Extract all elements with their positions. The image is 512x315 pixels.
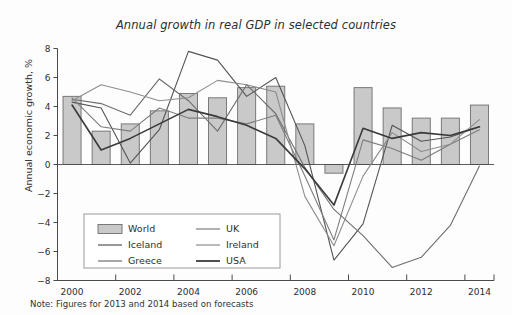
legend-label-usa: USA	[226, 255, 246, 266]
y-tick-label: −4	[37, 218, 51, 228]
y-tick-label: 0	[45, 160, 51, 170]
legend-label-world: World	[128, 223, 155, 234]
x-tick-label: 2014	[468, 287, 491, 297]
y-tick-label: −6	[37, 247, 51, 257]
x-tick-labels: 20002002200420062008201020122014	[61, 287, 492, 297]
x-tick-label: 2002	[119, 287, 142, 297]
legend-label-uk: UK	[226, 223, 240, 234]
bar-2014	[470, 105, 488, 164]
bar-2010	[354, 88, 372, 165]
y-tick-label: 2	[45, 131, 51, 141]
x-tick-label: 2008	[293, 287, 316, 297]
x-tick-label: 2006	[235, 287, 258, 297]
chart-legend: WorldUKIcelandIrelandGreeceUSA	[84, 214, 280, 268]
y-tick-label: 8	[45, 44, 51, 54]
x-tick-label: 2000	[61, 287, 84, 297]
y-tick-label: −8	[37, 276, 51, 286]
legend-label-iceland: Iceland	[128, 239, 162, 250]
legend-label-greece: Greece	[128, 255, 162, 266]
x-tick-label: 2010	[352, 287, 375, 297]
bar-series-world	[63, 86, 488, 173]
x-tick-label: 2004	[177, 287, 200, 297]
bar-2009	[325, 165, 343, 174]
y-tick-label: −2	[37, 189, 50, 199]
chart-note: Note: Figures for 2013 and 2014 based on…	[30, 299, 253, 309]
bar-2000	[63, 96, 81, 164]
y-tick-label: 4	[45, 102, 51, 112]
legend-swatch-world	[98, 225, 122, 234]
legend-label-ireland: Ireland	[226, 239, 259, 250]
y-tick-labels: 86420−2−4−6−8	[37, 44, 51, 286]
x-tick-label: 2012	[410, 287, 433, 297]
plot-area: 86420−2−4−6−8 20002002200420062008201020…	[0, 0, 512, 315]
y-tick-label: 6	[45, 73, 51, 83]
bar-2004	[179, 93, 197, 164]
chart-figure: Annual growth in real GDP in selected co…	[0, 0, 512, 315]
